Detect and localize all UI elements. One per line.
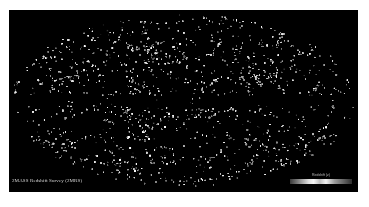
colorbar-gradient <box>290 179 352 184</box>
colorbar-label: Redshift (z) <box>290 173 352 177</box>
all-sky-galaxy-map <box>9 10 358 192</box>
colorbar: Redshift (z) <box>290 173 352 187</box>
sky-map-frame: 2MASS Redshift Survey (2MRS) Redshift (z… <box>9 10 358 192</box>
survey-caption: 2MASS Redshift Survey (2MRS) <box>12 178 82 183</box>
